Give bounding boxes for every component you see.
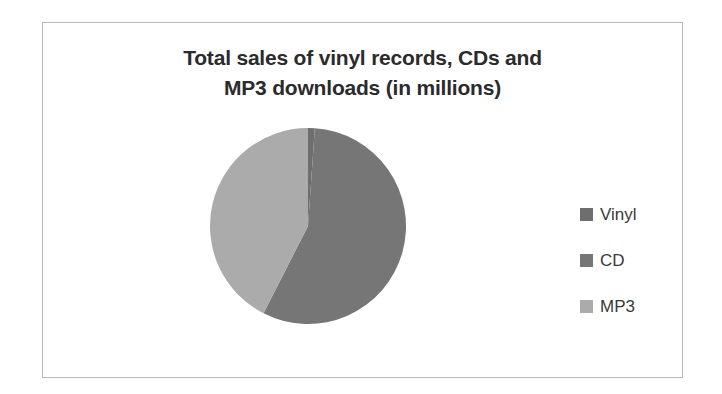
legend-swatch-mp3: [580, 300, 593, 313]
legend-item-vinyl[interactable]: Vinyl: [580, 191, 680, 237]
chart-legend: Vinyl CD MP3: [580, 191, 680, 329]
legend-swatch-vinyl: [580, 208, 593, 221]
legend-label-vinyl: Vinyl: [600, 206, 637, 223]
pie-chart-svg: [209, 127, 407, 325]
chart-title: Total sales of vinyl records, CDs and MP…: [43, 43, 682, 103]
legend-label-cd: CD: [600, 252, 625, 269]
pie-slice-group: [210, 128, 406, 324]
chart-title-line-2: MP3 downloads (in millions): [43, 73, 682, 103]
chart-title-line-1: Total sales of vinyl records, CDs and: [43, 43, 682, 73]
legend-swatch-cd: [580, 254, 593, 267]
legend-item-mp3[interactable]: MP3: [580, 283, 680, 329]
legend-item-cd[interactable]: CD: [580, 237, 680, 283]
legend-label-mp3: MP3: [600, 298, 635, 315]
pie-chart: [209, 127, 407, 325]
chart-frame: Total sales of vinyl records, CDs and MP…: [42, 22, 683, 378]
